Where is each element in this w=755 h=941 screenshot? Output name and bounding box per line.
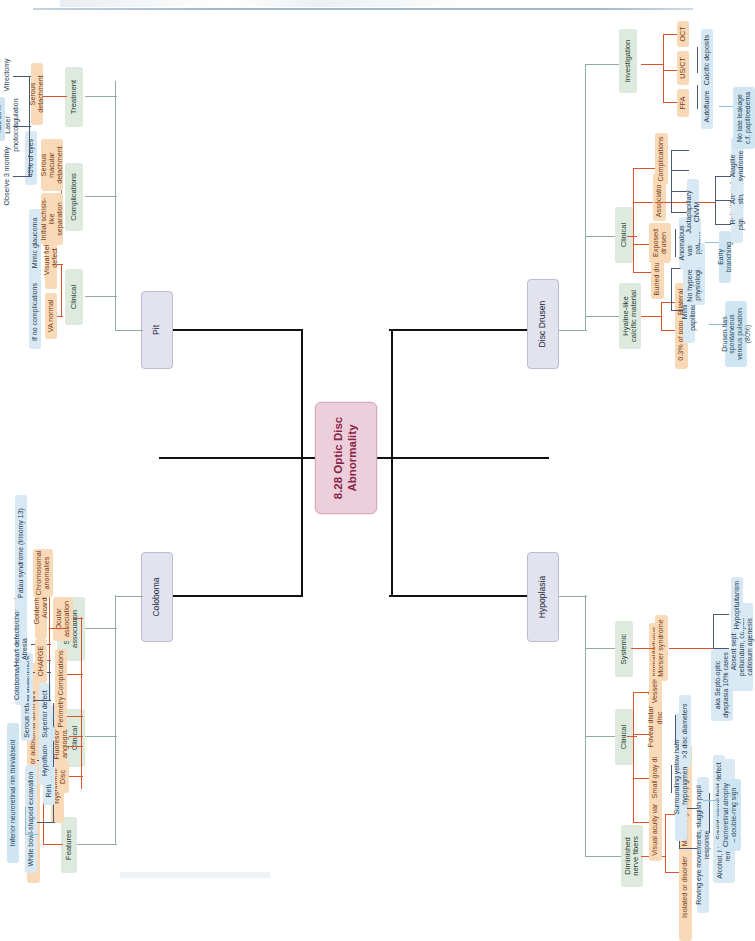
- hypo-morsier-label[interactable]: Morsier syndrome: [655, 615, 668, 681]
- drusen-buried-blue-bar: [671, 269, 672, 311]
- drusen-ffa-cyan-v: [719, 106, 733, 107]
- hypo-sg-cyan-v: [703, 800, 717, 801]
- hypo-morsier-red-drop: [669, 648, 713, 649]
- trunk-to-coloboma: [301, 457, 303, 597]
- pit-green-to-treatment: [85, 96, 117, 97]
- drusen-usct-blue-bar: [697, 47, 698, 73]
- coloboma-complications-label[interactable]: Complications: [55, 649, 67, 697]
- drusen-buried-sub[interactable]: Drusen has spontaneous venous pulsation …: [725, 301, 747, 367]
- hypo-dim-red-bar: [665, 815, 666, 873]
- pit-vitrectomy-label[interactable]: Vitrectomy: [1, 53, 13, 97]
- trunk-to-pit: [301, 329, 303, 457]
- pit-serous-detachment-label[interactable]: Serous detachment: [31, 63, 43, 125]
- drusen-green-spine: [585, 65, 586, 331]
- drusen-hyaline-red-stem: [641, 316, 661, 317]
- trunk-right-down: [389, 329, 549, 331]
- disc-blue-l: [37, 822, 55, 823]
- hypo-morsier-item-2[interactable]: Hypopituitarism: [731, 577, 743, 633]
- charge-label[interactable]: CHARGE: [35, 639, 47, 683]
- coloboma-stem: [115, 596, 143, 597]
- hypo-systemic-label[interactable]: Systemic: [615, 621, 633, 677]
- hypo-fov-blue-bar: [675, 715, 676, 745]
- hypo-morsier-blue-r: [713, 614, 729, 615]
- page-header-rule: [33, 8, 693, 10]
- drusen-assoc-blue-bar: [715, 177, 716, 225]
- coloboma-clinical-red-stem: [69, 736, 83, 737]
- mindmap-rotated-container: 8.28 Optic Disc Abnormality Coloboma Pit…: [19, 17, 679, 897]
- disc-sub-cyan-h: [25, 807, 26, 835]
- pit-laser-item-1[interactable]: Success rate 25%: [0, 97, 5, 141]
- drusen-comp-blue-3: [671, 150, 689, 151]
- pit-initial-label[interactable]: Initial schisis-like separation: [41, 193, 63, 245]
- drusen-green-to-investigation: [585, 64, 619, 65]
- perimetry-blue-bar: [53, 703, 54, 727]
- drusen-cl-t3: [633, 168, 655, 169]
- coloboma-perimetry-label[interactable]: Perimetry: [55, 693, 67, 731]
- hypo-green-to-clinical: [585, 736, 615, 737]
- pit-treat-blue-r: [13, 76, 31, 77]
- trunk-to-drusen: [391, 329, 393, 457]
- page-header-ghost: [60, 0, 480, 7]
- drusen-usct-item-0[interactable]: Calcific deposits: [701, 29, 713, 91]
- hypo-stem: [559, 596, 587, 597]
- drusen-usct-label[interactable]: US/CT: [677, 51, 689, 85]
- features-red-stem: [43, 844, 63, 845]
- disc-item-0[interactable]: White bowl-shaped excavation: [25, 765, 37, 873]
- patau-item[interactable]: Patau syndrome (trisomy 13): [15, 495, 27, 611]
- pit-clinical-red-bar: [61, 265, 62, 317]
- pit-green-spine: [115, 81, 116, 331]
- disc-sub-cyan-v: [25, 834, 39, 835]
- drusen-cl-t2: [633, 202, 655, 203]
- disc-sub-item[interactable]: Inferior neuroretinal rim thin/absent: [7, 723, 19, 863]
- drusen-comp-blue-bar: [671, 151, 672, 213]
- branch-node-drusen[interactable]: Disc Drusen: [527, 279, 559, 369]
- pit-va-label[interactable]: VA normal: [45, 293, 57, 339]
- branch-node-hypoplasia[interactable]: Hypoplasia: [527, 552, 559, 642]
- coloboma-green-to-systemic: [85, 628, 117, 629]
- systemic-red-bar: [49, 597, 50, 661]
- drusen-complications-label[interactable]: Complications: [655, 133, 668, 185]
- pit-complications-label[interactable]: Complications: [65, 163, 83, 231]
- drusen-oct-label[interactable]: OCT: [677, 21, 689, 47]
- root-node[interactable]: 8.28 Optic Disc Abnormality: [315, 402, 377, 514]
- branch-node-coloboma[interactable]: Coloboma: [141, 552, 173, 642]
- coloboma-features-label[interactable]: Features: [61, 817, 77, 873]
- drusen-exposed-label[interactable]: Exposed drusen: [649, 223, 671, 263]
- coloboma-ocular-label[interactable]: Ocular association: [53, 597, 73, 641]
- drusen-hyaline-label[interactable]: Hyaline-like calcific material: [619, 283, 641, 349]
- clinical-tick-perimetry: [67, 716, 83, 717]
- pit-treat-blue-bar: [29, 77, 30, 177]
- hypo-clinical-label[interactable]: Clinical: [615, 709, 633, 765]
- trunk-left-up: [159, 595, 303, 597]
- coloboma-clinical-red-spine: [81, 617, 82, 789]
- pit-treatment-red-stem: [43, 96, 67, 97]
- pit-clinical-label[interactable]: Clinical: [65, 269, 83, 325]
- pit-serous-macular-label[interactable]: Serous macular detachment: [41, 139, 63, 191]
- hypo-clinical-red-stem: [627, 736, 637, 737]
- drusen-ffa-label[interactable]: FFA: [677, 89, 689, 117]
- coloboma-green-spine: [115, 595, 116, 845]
- ffa-blue-bar: [53, 741, 54, 767]
- drusen-green-to-hyaline: [585, 316, 619, 317]
- hypo-foveal-item-0[interactable]: >3 disc diameters: [679, 695, 691, 767]
- hypo-diminished-label[interactable]: Diminished nerve fibers: [621, 825, 643, 887]
- pit-treatment-label[interactable]: Treatment: [65, 67, 83, 127]
- drusen-hyaline-red-bar: [661, 303, 662, 331]
- systemic-red-stem: [49, 628, 69, 629]
- hypo-sg-blue-bar: [671, 765, 672, 793]
- drusen-clinical-red-stem: [627, 236, 637, 237]
- clinical-tick-ffa: [67, 746, 83, 747]
- hypo-clinical-red-bar: [633, 693, 634, 823]
- drusen-inv-red-stem: [641, 64, 663, 65]
- hypo-smallgray-sub[interactable]: Chorioretinal atrophy – double-ring sign: [719, 779, 741, 851]
- pit-va-item-0[interactable]: If no complications: [29, 275, 41, 349]
- trunk-to-hypoplasia: [391, 457, 393, 597]
- hypo-green-spine: [585, 595, 586, 857]
- chromosomal-label[interactable]: Chromosomal anomalies: [33, 549, 53, 597]
- drusen-investigation-label[interactable]: Investigation: [619, 29, 637, 93]
- hypo-va-item-0[interactable]: Roving eye movements, sluggish pupil res…: [697, 777, 709, 913]
- drusen-ffa-sub[interactable]: No late leakage c.f. papilloedema: [733, 87, 755, 149]
- hypo-systemic-red-stem: [631, 648, 657, 649]
- branch-node-pit[interactable]: Pit: [141, 291, 173, 369]
- trunk-right-up: [159, 329, 303, 331]
